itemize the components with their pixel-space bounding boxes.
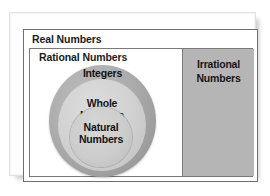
irrational-numbers-label: Irrational Numbers — [183, 57, 254, 85]
irrational-numbers-label-line2: Numbers — [183, 71, 254, 85]
integers-label: Integers — [49, 67, 156, 79]
rational-numbers-label: Rational Numbers — [39, 51, 127, 63]
real-numbers-label: Real Numbers — [32, 33, 101, 45]
natural-numbers-label-line1: Natural — [70, 121, 132, 133]
natural-numbers-circle: Natural Numbers — [70, 107, 132, 167]
irrational-numbers-label-line1: Irrational — [183, 57, 254, 71]
figure-plate: Real Numbers Rational Numbers Irrational… — [9, 12, 256, 176]
nested-circles: Integers Whole Numbers Natural Numbers — [49, 65, 156, 177]
number-sets-diagram: Real Numbers Rational Numbers Irrational… — [0, 0, 270, 196]
real-numbers-box: Real Numbers Rational Numbers Irrational… — [23, 29, 258, 182]
rational-numbers-box: Rational Numbers Irrational Numbers Inte… — [29, 48, 253, 177]
natural-numbers-label-line2: Numbers — [70, 133, 132, 145]
natural-numbers-label: Natural Numbers — [70, 121, 132, 145]
irrational-numbers-panel: Irrational Numbers — [182, 49, 254, 176]
